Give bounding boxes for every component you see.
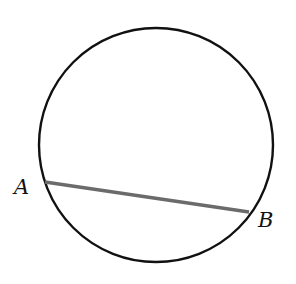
circle-chord-diagram: A B	[0, 0, 296, 284]
chord-ab	[45, 182, 249, 212]
point-label-a: A	[12, 175, 29, 199]
point-label-b: B	[257, 208, 273, 232]
circle	[39, 28, 273, 262]
